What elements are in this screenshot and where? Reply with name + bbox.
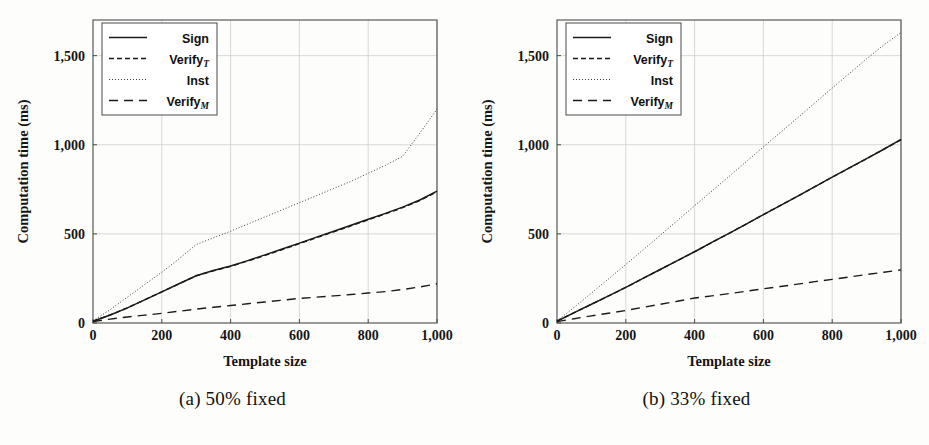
- series-line-inst: [93, 109, 437, 321]
- legend-subscript: M: [664, 101, 674, 111]
- legend-label: Inst: [187, 74, 210, 88]
- y-tick-label: 1,000: [54, 138, 86, 153]
- y-tick-label: 500: [64, 227, 85, 242]
- legend-label: Sign: [182, 32, 209, 46]
- x-tick-label: 0: [90, 328, 97, 343]
- legend-label: Sign: [646, 32, 673, 46]
- x-tick-label: 1,000: [885, 328, 917, 343]
- x-tick-label: 800: [358, 328, 379, 343]
- chart-panel-b: 02004006008001,00005001,0001,500Template…: [464, 0, 929, 445]
- legend-label: Inst: [651, 74, 674, 88]
- x-tick-label: 400: [684, 328, 705, 343]
- data-series: [93, 109, 437, 321]
- x-tick-label: 400: [220, 328, 241, 343]
- legend-subscript: M: [200, 101, 210, 111]
- figure-container: 02004006008001,00005001,0001,500Template…: [0, 0, 929, 445]
- tick-labels: 02004006008001,00005001,0001,500Template…: [15, 49, 453, 369]
- y-tick-label: 1,000: [518, 138, 550, 153]
- x-tick-label: 800: [822, 328, 843, 343]
- x-axis-title: Template size: [687, 353, 771, 369]
- y-tick-label: 1,500: [518, 49, 550, 64]
- x-tick-label: 200: [151, 328, 172, 343]
- x-tick-label: 0: [554, 328, 561, 343]
- x-tick-label: 600: [289, 328, 310, 343]
- legend: SignVerifyTInstVerifyM: [566, 23, 681, 115]
- x-tick-label: 200: [615, 328, 636, 343]
- y-tick-label: 500: [528, 227, 549, 242]
- plot-area-b: 02004006008001,00005001,0001,500Template…: [464, 0, 929, 445]
- x-axis-title: Template size: [223, 353, 307, 369]
- series-line-sign: [557, 139, 901, 321]
- y-axis-title: Computation time (ms): [15, 99, 32, 243]
- tick-labels: 02004006008001,00005001,0001,500Template…: [479, 49, 917, 369]
- chart-panel-a: 02004006008001,00005001,0001,500Template…: [0, 0, 465, 445]
- series-line-verify-t: [557, 140, 901, 321]
- series-line-verify-m: [93, 284, 437, 322]
- panel-caption-a: (a) 50% fixed: [0, 388, 465, 410]
- x-tick-label: 600: [753, 328, 774, 343]
- y-axis-title: Computation time (ms): [479, 99, 496, 243]
- x-tick-label: 1,000: [421, 328, 453, 343]
- panel-caption-b: (b) 33% fixed: [464, 388, 929, 410]
- legend: SignVerifyTInstVerifyM: [102, 23, 217, 115]
- plot-area-a: 02004006008001,00005001,0001,500Template…: [0, 0, 465, 445]
- y-tick-label: 0: [78, 316, 85, 331]
- y-tick-label: 0: [542, 316, 549, 331]
- y-tick-label: 1,500: [54, 49, 86, 64]
